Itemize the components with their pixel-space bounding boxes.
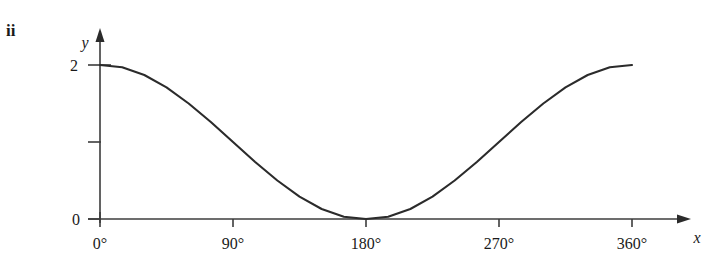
y-tick-label-0: 0 — [72, 211, 80, 228]
x-axis-label: x — [692, 229, 700, 246]
y-axis-arrow-icon — [96, 28, 105, 42]
y-tick-label-2: 2 — [70, 57, 78, 74]
x-tick-label-360: 360° — [617, 235, 647, 252]
cosine-graph-svg: 2 0 y 0° 90° 180° 270° 360° x — [0, 0, 710, 257]
x-tick-label-0: 0° — [93, 235, 107, 252]
x-tick-label-90: 90° — [222, 235, 244, 252]
x-tick-label-180: 180° — [351, 235, 381, 252]
curve-path — [100, 65, 632, 219]
x-axis-arrow-icon — [677, 215, 691, 224]
figure-panel: ii 2 0 y 0° 90° 180° 270° 360° x — [0, 0, 710, 257]
x-tick-label-270: 270° — [484, 235, 514, 252]
y-axis-label: y — [79, 34, 89, 52]
